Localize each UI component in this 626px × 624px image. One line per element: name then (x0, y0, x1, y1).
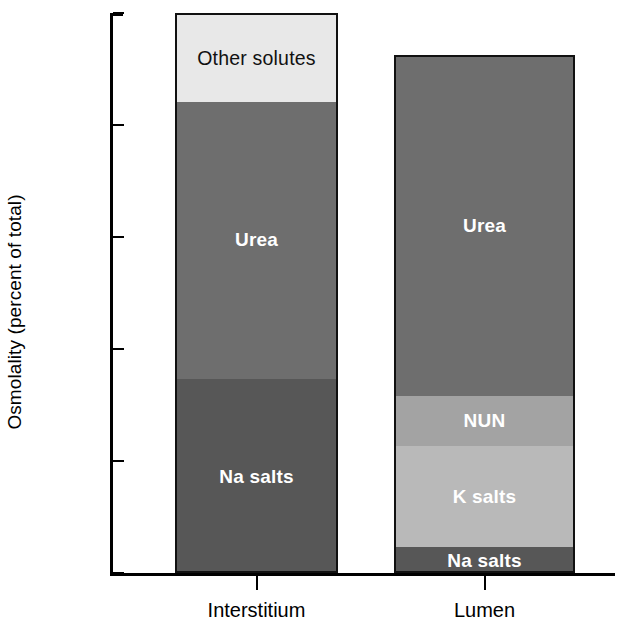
bar-lumen[interactable]: Na saltsK saltsNUNUrea (394, 55, 575, 573)
x-axis-label-interstitium: Interstitium (147, 599, 367, 622)
y-axis-tick-100 (113, 12, 124, 14)
y-axis-tick-80 (113, 124, 124, 126)
segment-label: NUN (464, 410, 506, 432)
x-axis-tick-interstitium (256, 576, 258, 590)
segment-k-salts[interactable]: K salts (396, 446, 573, 547)
segment-urea[interactable]: Urea (396, 57, 573, 396)
y-axis-tick-20 (113, 460, 124, 462)
segment-label: Urea (463, 215, 506, 237)
plot-area: 100806040200 Na saltsUreaOther solutesNa… (110, 13, 610, 573)
x-axis-line (110, 573, 615, 576)
segment-na-salts[interactable]: Na salts (177, 379, 336, 573)
stacked-bar-chart: Osmolality (percent of total) 1008060402… (0, 0, 626, 624)
segment-urea[interactable]: Urea (177, 102, 336, 379)
y-axis-title: Osmolality (percent of total) (0, 0, 30, 624)
segment-other-solutes[interactable]: Other solutes (177, 15, 336, 102)
y-axis-tick-40 (113, 348, 124, 350)
y-axis-tick-0 (113, 572, 124, 574)
x-axis-label-lumen: Lumen (375, 599, 595, 622)
segment-label: Na salts (447, 550, 521, 572)
segment-label: Na salts (219, 466, 293, 488)
segment-na-salts[interactable]: Na salts (396, 547, 573, 573)
segment-label: K salts (453, 486, 517, 508)
y-axis-line (110, 13, 113, 576)
x-axis-tick-lumen (484, 576, 486, 590)
segment-label: Other solutes (197, 47, 316, 70)
segment-nun[interactable]: NUN (396, 396, 573, 446)
bar-interstitium[interactable]: Na saltsUreaOther solutes (175, 13, 338, 573)
y-axis-tick-60 (113, 236, 124, 238)
segment-label: Urea (235, 229, 278, 251)
